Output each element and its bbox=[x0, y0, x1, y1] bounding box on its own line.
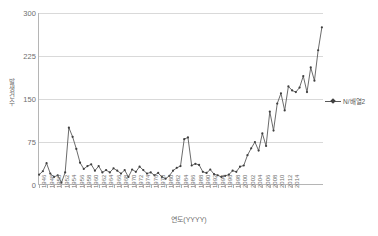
x-tick-mark bbox=[240, 185, 241, 188]
x-tick-label-2014: 2014 bbox=[294, 175, 300, 188]
x-tick-mark bbox=[91, 185, 92, 188]
x-tick-mark bbox=[166, 185, 167, 188]
series-line bbox=[39, 27, 322, 182]
y-tick-label-75: 75 bbox=[27, 138, 36, 147]
x-tick-mark bbox=[247, 185, 248, 188]
x-tick-mark bbox=[218, 185, 219, 188]
diamond-marker-icon bbox=[325, 98, 341, 105]
x-tick-mark bbox=[69, 185, 70, 188]
x-tick-mark bbox=[143, 185, 144, 188]
x-tick-mark bbox=[121, 185, 122, 188]
legend-label-series-0: N/배열2 bbox=[343, 96, 365, 106]
x-tick-mark bbox=[47, 185, 48, 188]
x-tick-mark bbox=[39, 185, 40, 188]
x-tick-mark bbox=[262, 185, 263, 188]
x-tick-mark bbox=[270, 185, 271, 188]
x-tick-mark bbox=[188, 185, 189, 188]
x-tick-mark bbox=[225, 185, 226, 188]
x-tick-mark bbox=[285, 185, 286, 188]
x-tick-mark bbox=[84, 185, 85, 188]
line-chart: 발생건수 300 225 150 75 0 194619481950195219… bbox=[0, 0, 378, 236]
x-tick-mark bbox=[292, 185, 293, 188]
x-tick-mark bbox=[151, 185, 152, 188]
x-tick-mark bbox=[76, 185, 77, 188]
x-tick-mark bbox=[203, 185, 204, 188]
x-tick-mark bbox=[277, 185, 278, 188]
x-tick-mark bbox=[210, 185, 211, 188]
x-tick-mark bbox=[173, 185, 174, 188]
x-tick-mark bbox=[54, 185, 55, 188]
x-tick-mark bbox=[61, 185, 62, 188]
plot-area bbox=[38, 13, 323, 185]
series-markers bbox=[38, 26, 323, 184]
x-tick-mark bbox=[195, 185, 196, 188]
y-axis-title: 발생건수 bbox=[6, 78, 17, 106]
x-tick-mark bbox=[255, 185, 256, 188]
x-tick-mark bbox=[106, 185, 107, 188]
x-axis-title: 연도(YYYY) bbox=[0, 214, 378, 224]
x-tick-mark bbox=[181, 185, 182, 188]
x-tick-mark bbox=[233, 185, 234, 188]
x-tick-mark bbox=[158, 185, 159, 188]
x-tick-mark bbox=[99, 185, 100, 188]
series-plot bbox=[38, 13, 323, 185]
y-tick-label-300: 300 bbox=[23, 9, 36, 18]
x-tick-mark bbox=[114, 185, 115, 188]
x-tick-mark bbox=[128, 185, 129, 188]
chart-legend: N/배열2 bbox=[325, 96, 365, 106]
x-tick-mark bbox=[136, 185, 137, 188]
y-tick-label-0: 0 bbox=[32, 181, 36, 190]
y-tick-label-225: 225 bbox=[23, 52, 36, 61]
y-tick-label-150: 150 bbox=[23, 95, 36, 104]
